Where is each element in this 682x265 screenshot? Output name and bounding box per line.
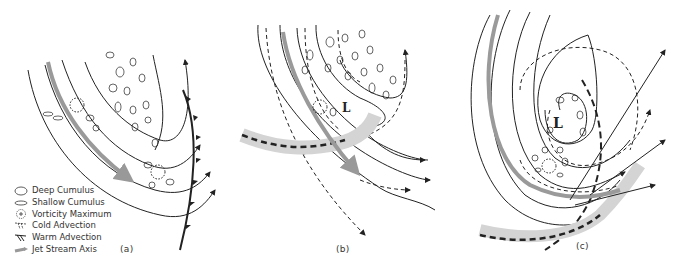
legend-item-cold-advection: Cold Advection — [14, 220, 112, 232]
panel-b: L — [242, 25, 435, 235]
vorticity-maximum-icon — [14, 209, 28, 219]
low-center-b: L — [342, 101, 351, 115]
legend-item-vorticity-maximum: Vorticity Maximum — [14, 209, 112, 221]
legend: Deep Cumulus Shallow Cumulus Vorticity M… — [14, 185, 112, 256]
cold-advection-icon — [14, 221, 28, 231]
panel-c: L — [471, 10, 665, 250]
panel-label-b: (b) — [336, 244, 350, 254]
panel-label-a: (a) — [120, 244, 133, 254]
deep-cumulus-icon — [14, 186, 28, 196]
jet-stream-axis-icon — [14, 245, 28, 255]
legend-item-jet-stream-axis: Jet Stream Axis — [14, 244, 112, 256]
warm-advection-icon — [14, 233, 28, 243]
shallow-cumulus-icon — [14, 198, 28, 208]
low-center-c: L — [553, 115, 563, 131]
panel-label-c: (c) — [576, 241, 589, 251]
legend-item-warm-advection: Warm Advection — [14, 232, 112, 244]
legend-item-deep-cumulus: Deep Cumulus — [14, 185, 112, 197]
legend-item-shallow-cumulus: Shallow Cumulus — [14, 197, 112, 209]
